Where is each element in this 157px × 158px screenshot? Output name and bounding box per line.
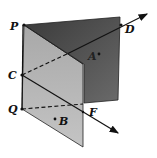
label-c: C: [8, 69, 17, 82]
label-d: D: [124, 23, 135, 36]
label-p: P: [9, 20, 19, 33]
label-b: B: [58, 115, 68, 128]
label-q: Q: [8, 103, 18, 116]
label-a: A: [87, 50, 97, 63]
point-d: [119, 23, 122, 26]
point-c: [20, 73, 23, 76]
point-b: [54, 118, 57, 121]
point-q: [20, 107, 23, 110]
point-f: [82, 111, 84, 113]
point-p: [22, 23, 25, 26]
point-a: [98, 53, 101, 56]
label-f: F: [88, 106, 98, 119]
dihedral-angle-diagram: P D A C Q F B: [0, 0, 157, 158]
